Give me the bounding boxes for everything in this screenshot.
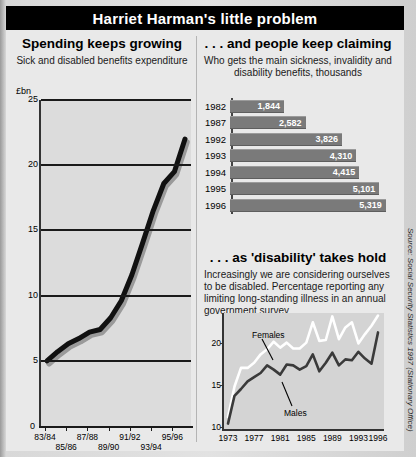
series-label-males: Males: [284, 408, 307, 418]
bar-row-value-label: 4,415: [333, 167, 360, 177]
bar-row-value-label: 5,319: [359, 200, 386, 210]
bottom-chart-ytick: [220, 427, 224, 428]
bar-row-year-label: 1993: [204, 150, 230, 161]
bottom-chart-xtick-label: 1989: [323, 433, 342, 443]
bar-chart-subtitle: Who gets the main sickness, invalidity a…: [204, 55, 392, 79]
bar-row-value-label: 3,826: [316, 134, 343, 144]
left-chart-panel: Spending keeps growing Sick and disabled…: [8, 36, 196, 448]
left-chart-xtick-label: 89/90: [98, 442, 119, 452]
bar-chart-row: 19872,582: [204, 115, 394, 132]
bar-row-track: 5,319: [230, 199, 394, 212]
bar-chart-row: 19923,826: [204, 131, 394, 148]
bar-row-year-label: 1995: [204, 183, 230, 194]
bar-row-fill: 5,101: [230, 182, 379, 195]
bottom-chart-subtitle: Increasingly we are considering ourselve…: [204, 269, 392, 317]
left-chart-gridline: [41, 99, 191, 101]
left-chart-gridline: [41, 229, 191, 231]
bar-row-track: 4,415: [230, 166, 394, 179]
left-chart-xtick: [66, 426, 67, 431]
bar-row-value-label: 4,310: [330, 151, 357, 161]
bottom-chart-xtick-label: 1973: [219, 433, 238, 443]
bottom-chart-title: . . . as 'disability' takes hold: [204, 250, 392, 266]
left-chart-gridline: [41, 295, 191, 297]
page-title-bar: Harriet Harman's little problem: [6, 6, 404, 30]
left-chart-xtick-label: 93/94: [141, 442, 162, 452]
left-chart-zero-label: 0: [30, 421, 35, 431]
page-title: Harriet Harman's little problem: [93, 10, 318, 27]
bottom-chart-ytick: [220, 385, 224, 386]
left-chart-ytick-label: 20: [28, 159, 38, 169]
panel-divider: [196, 36, 197, 442]
bar-chart-row: 19955,101: [204, 181, 394, 198]
bar-chart-row: 19965,319: [204, 197, 394, 214]
bar-row-year-label: 1992: [204, 134, 230, 145]
left-chart-xtick-label: 83/84: [34, 432, 55, 442]
bar-row-track: 1,844: [230, 100, 394, 113]
bar-row-fill: 1,844: [230, 100, 284, 113]
bar-chart-row: 19944,415: [204, 164, 394, 181]
left-chart-xtick: [45, 426, 46, 431]
bottom-chart-xtick-label: 1977: [245, 433, 264, 443]
bar-row-value-label: 1,844: [257, 101, 284, 111]
left-chart-ytick-label: 15: [28, 224, 38, 234]
left-chart-xtick: [109, 426, 110, 431]
bar-chart-rows: 19821,84419872,58219923,82619934,3101994…: [204, 98, 394, 214]
left-chart-xtick-label: 95/96: [162, 432, 183, 442]
left-chart-gridline: [41, 164, 191, 166]
bar-row-year-label: 1982: [204, 101, 230, 112]
bar-row-fill: 3,826: [230, 133, 342, 146]
left-chart-xtick-label: 85/86: [56, 442, 77, 452]
bar-row-fill: 5,319: [230, 199, 386, 212]
bar-chart-row: 19934,310: [204, 148, 394, 165]
bottom-chart-xtick-label: 1996: [369, 433, 388, 443]
left-chart-xaxis: [39, 426, 193, 428]
left-chart-ytick-label: 10: [28, 290, 38, 300]
left-chart-xtick-label: 87/88: [77, 432, 98, 442]
infographic-page: Harriet Harman's little problem Spending…: [0, 0, 416, 457]
bar-row-year-label: 1987: [204, 117, 230, 128]
bottom-chart-panel: . . . as 'disability' takes hold Increas…: [204, 250, 392, 317]
left-chart-xtick: [172, 426, 173, 431]
bar-row-track: 4,310: [230, 149, 394, 162]
series-label-females: Females: [252, 330, 285, 340]
bar-chart-panel: . . . and people keep claiming Who gets …: [204, 36, 392, 79]
bar-row-value-label: 5,101: [353, 184, 380, 194]
bottom-chart-xtick-label: 1985: [297, 433, 316, 443]
bar-row-fill: 4,415: [230, 166, 359, 179]
left-chart-xtick: [87, 426, 88, 431]
left-chart-ytick-label: 5: [33, 355, 38, 365]
bar-chart-row: 19821,844: [204, 98, 394, 115]
bottom-chart-xtick-label: 1993: [349, 433, 368, 443]
left-chart-xtick: [130, 426, 131, 431]
bottom-chart-ytick: [220, 343, 224, 344]
bar-chart-title: . . . and people keep claiming: [204, 36, 392, 52]
left-chart-title: Spending keeps growing: [8, 36, 196, 52]
spending-line-series: [41, 100, 193, 426]
bar-row-track: 3,826: [230, 133, 394, 146]
bar-row-fill: 4,310: [230, 149, 356, 162]
left-chart-plot-area: 510152025: [39, 100, 191, 426]
bar-row-value-label: 2,582: [279, 118, 306, 128]
bar-row-year-label: 1996: [204, 200, 230, 211]
left-chart-subtitle: Sick and disabled benefits expenditure: [8, 55, 196, 67]
left-chart-gridline: [41, 360, 191, 362]
source-note: Source: Social Security Statistics 1997 …: [406, 228, 415, 432]
bar-row-year-label: 1994: [204, 167, 230, 178]
bar-row-track: 5,101: [230, 182, 394, 195]
left-chart-ytick-label: 25: [28, 94, 38, 104]
left-chart-xtick-label: 91/92: [119, 432, 140, 442]
bar-row-fill: 2,582: [230, 116, 306, 129]
bar-row-track: 2,582: [230, 116, 394, 129]
left-chart-xtick: [151, 426, 152, 431]
bottom-chart-xtick-label: 1981: [271, 433, 290, 443]
